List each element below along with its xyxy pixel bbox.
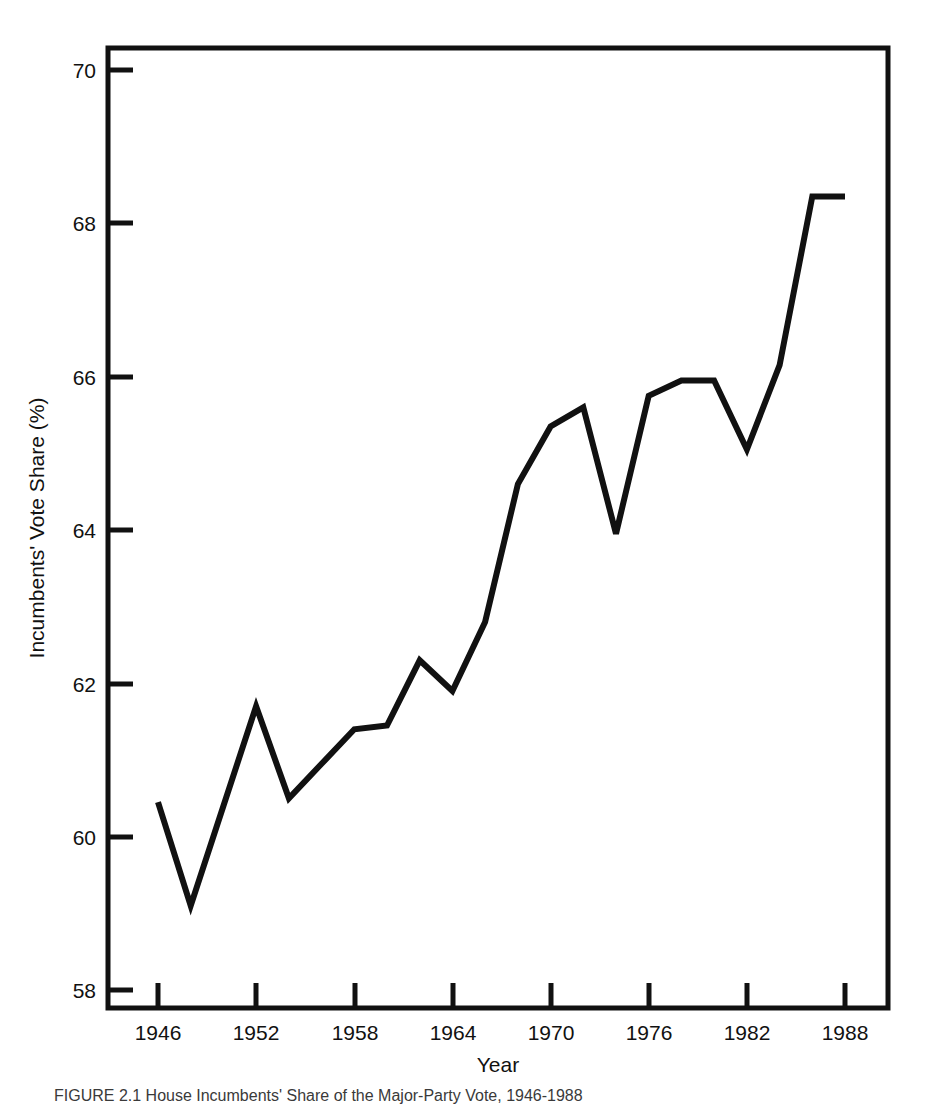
figure-caption: FIGURE 2.1 House Incumbents' Share of th… bbox=[54, 1086, 884, 1104]
x-axis-ticks bbox=[158, 983, 845, 1008]
y-tick-label: 60 bbox=[73, 826, 96, 849]
y-tick-label: 66 bbox=[73, 366, 96, 389]
figure-container: 70 68 66 64 62 60 58 1946 1952 1958 1964… bbox=[0, 0, 926, 1104]
y-tick-label: 62 bbox=[73, 673, 96, 696]
x-tick-label: 1970 bbox=[528, 1021, 575, 1044]
y-axis-title: Incumbents' Vote Share (%) bbox=[25, 398, 48, 659]
line-chart: 70 68 66 64 62 60 58 1946 1952 1958 1964… bbox=[0, 0, 926, 1075]
x-tick-label: 1946 bbox=[135, 1021, 182, 1044]
plot-frame bbox=[108, 48, 888, 1008]
y-tick-label: 70 bbox=[73, 59, 96, 82]
x-tick-label: 1976 bbox=[626, 1021, 673, 1044]
x-tick-label: 1958 bbox=[332, 1021, 379, 1044]
x-tick-label: 1952 bbox=[233, 1021, 280, 1044]
x-axis-tick-labels: 1946 1952 1958 1964 1970 1976 1982 1988 bbox=[135, 1021, 869, 1044]
y-axis-ticks bbox=[108, 70, 133, 990]
x-tick-label: 1982 bbox=[724, 1021, 771, 1044]
y-tick-label: 68 bbox=[73, 212, 96, 235]
x-tick-label: 1988 bbox=[822, 1021, 869, 1044]
y-axis-tick-labels: 70 68 66 64 62 60 58 bbox=[73, 59, 97, 1002]
y-tick-label: 64 bbox=[73, 519, 97, 542]
x-tick-label: 1964 bbox=[430, 1021, 477, 1044]
data-series-line bbox=[158, 197, 845, 906]
x-axis-title: Year bbox=[477, 1053, 519, 1075]
y-tick-label: 58 bbox=[73, 979, 96, 1002]
